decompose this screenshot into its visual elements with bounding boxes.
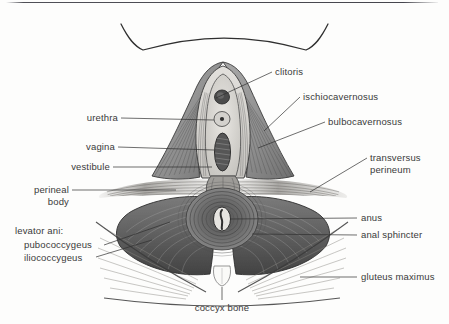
vagina bbox=[215, 133, 231, 171]
leader-ischiocavernosus bbox=[264, 97, 300, 131]
label-coccyx-bone: coccyx bone bbox=[182, 302, 262, 314]
clitoris bbox=[215, 90, 230, 104]
label-perineal-body: body bbox=[0, 196, 69, 208]
label-perineal: perineal bbox=[0, 184, 69, 196]
label-transversus: transversus bbox=[370, 152, 421, 164]
label-vestibule: vestibule bbox=[30, 161, 110, 173]
label-pubococcygeus: pubococcygeus bbox=[24, 239, 92, 251]
label-anal-sphincter: anal sphincter bbox=[361, 229, 422, 241]
label-levator-ani: levator ani: bbox=[15, 225, 63, 237]
anatomy-figure-page: clitoris ischiocavernosus bulbocavernosu… bbox=[0, 0, 449, 324]
label-ischiocavernosus: ischiocavernosus bbox=[303, 91, 378, 103]
leader-transversus bbox=[310, 158, 367, 192]
coccyx-bone bbox=[213, 266, 230, 286]
label-perineum: perineum bbox=[370, 164, 411, 176]
pubic-arch-outline bbox=[121, 24, 328, 50]
label-urethra: urethra bbox=[40, 112, 118, 124]
urethra bbox=[214, 112, 230, 127]
label-clitoris: clitoris bbox=[275, 66, 303, 78]
label-bulbocavernosus: bulbocavernosus bbox=[328, 116, 402, 128]
anus bbox=[214, 207, 231, 231]
label-iliococcygeus: iliococcygeus bbox=[24, 252, 82, 264]
label-gluteus-maximus: gluteus maximus bbox=[361, 271, 435, 283]
label-vagina: vagina bbox=[40, 141, 115, 153]
label-anus: anus bbox=[361, 212, 382, 224]
